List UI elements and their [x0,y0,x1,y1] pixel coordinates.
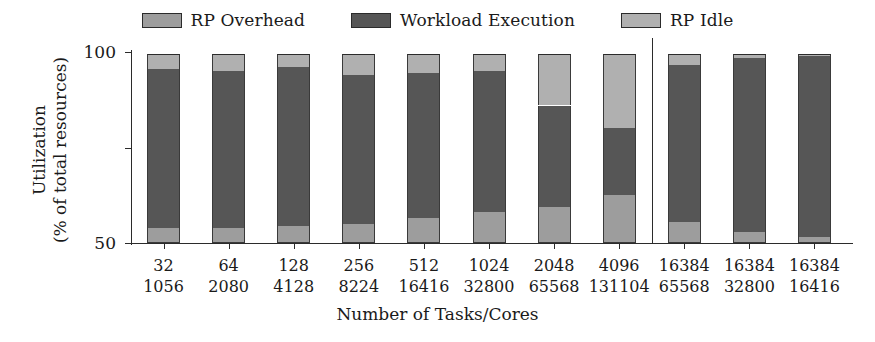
x-tick-mark [619,243,620,249]
x-tick-label: 642080 [208,255,249,297]
bar-segment-idle [147,54,180,69]
x-tick-label-cores: 4128 [273,276,314,297]
bar-segment-workload [147,69,180,228]
bar-segment-overhead [668,222,701,243]
bar-segment-idle [668,54,701,65]
stacked-bar [733,52,766,243]
bar-segment-workload [212,71,245,228]
stacked-bar [407,52,440,243]
stacked-bar [538,52,571,243]
bar-segment-idle [603,54,636,128]
x-tick-label-tasks: 16384 [659,255,710,276]
x-tick-mark [294,243,295,249]
stacked-bar [212,52,245,243]
x-tick-mark [814,243,815,249]
stacked-bar [798,52,831,243]
y-tick-mark: 50 [125,148,131,149]
x-tick-label-cores: 16416 [789,276,840,297]
stacked-bar [668,52,701,243]
y-axis-title-line2: (% of total resources) [50,57,70,243]
x-tick-label-cores: 131104 [589,276,650,297]
x-tick-label: 2568224 [338,255,379,297]
x-tick-mark [424,243,425,249]
x-tick-label-tasks: 1024 [464,255,515,276]
chart-figure: RP Overhead Workload Execution RP Idle U… [0,0,875,342]
bar-segment-workload [603,128,636,195]
x-tick-label-tasks: 2048 [529,255,580,276]
bar-segment-overhead [798,237,831,243]
stacked-bar [473,52,506,243]
x-tick-mark [164,243,165,249]
y-tick-label: 50 [94,233,116,253]
x-tick-label-cores: 1056 [143,276,184,297]
bar-segment-workload [342,75,375,224]
x-tick-mark [489,243,490,249]
bar-segment-idle [538,54,571,106]
legend-label-workload-execution: Workload Execution [400,12,575,29]
stacked-bar [603,52,636,243]
x-tick-mark [684,243,685,249]
bar-segment-workload [407,73,440,218]
bar-segment-idle [342,54,375,75]
x-tick-label-cores: 32800 [724,276,775,297]
x-tick-mark [554,243,555,249]
x-tick-label-tasks: 512 [398,255,449,276]
bar-segment-workload [668,65,701,222]
x-tick-label-cores: 16416 [398,276,449,297]
bar-segment-overhead [342,224,375,243]
bar-segment-overhead [473,212,506,243]
x-tick-label-tasks: 32 [143,255,184,276]
y-axis-title-line1: Utilization [29,105,49,195]
x-tick-label: 321056 [143,255,184,297]
x-tick-label-tasks: 4096 [589,255,650,276]
x-tick-mark [749,243,750,249]
x-tick-label-cores: 8224 [338,276,379,297]
y-tick-mark: 100 [125,52,131,53]
x-axis-title: Number of Tasks/Cores [0,304,875,324]
chart-legend: RP Overhead Workload Execution RP Idle [0,12,875,29]
bar-segment-idle [277,54,310,67]
legend-label-rp-overhead: RP Overhead [191,12,306,29]
x-tick-label: 204865568 [529,255,580,297]
x-tick-label: 1638465568 [659,255,710,297]
stacked-bar [277,52,310,243]
y-tick-label: 100 [84,42,116,62]
bar-segment-overhead [212,228,245,243]
x-tick-label: 1284128 [273,255,314,297]
x-tick-label: 4096131104 [589,255,650,297]
x-tick-label-tasks: 16384 [789,255,840,276]
x-tick-label: 51216416 [398,255,449,297]
legend-swatch-workload-execution [351,13,391,28]
bar-segment-workload [538,106,571,207]
bar-segment-workload [733,58,766,232]
x-tick-mark [359,243,360,249]
x-tick-label-cores: 65568 [659,276,710,297]
y-axis-title: Utilization (% of total resources) [29,57,71,243]
x-tick-label-tasks: 16384 [724,255,775,276]
bar-segment-idle [733,54,766,58]
bar-segment-idle [212,54,245,71]
x-axis-line [131,243,853,244]
bar-segment-overhead [538,207,571,243]
bar-segment-overhead [603,195,636,243]
bar-segment-idle [798,54,831,56]
y-axis-title-wrap: Utilization (% of total resources) [0,40,140,260]
x-tick-label-cores: 65568 [529,276,580,297]
x-tick-label: 1638432800 [724,255,775,297]
bar-segment-workload [277,67,310,226]
x-tick-label: 1638416416 [789,255,840,297]
bar-segment-workload [798,56,831,237]
group-separator-line [652,38,653,243]
bar-segment-overhead [407,218,440,243]
x-tick-label: 102432800 [464,255,515,297]
legend-item-rp-idle: RP Idle [621,12,733,29]
stacked-bar [342,52,375,243]
bar-segment-overhead [277,226,310,243]
bar-segment-overhead [147,228,180,243]
legend-item-workload-execution: Workload Execution [351,12,575,29]
plot-area: 050100 [131,52,847,243]
stacked-bar [147,52,180,243]
legend-swatch-rp-idle [621,13,661,28]
bar-segment-overhead [733,232,766,243]
x-tick-label-cores: 32800 [464,276,515,297]
